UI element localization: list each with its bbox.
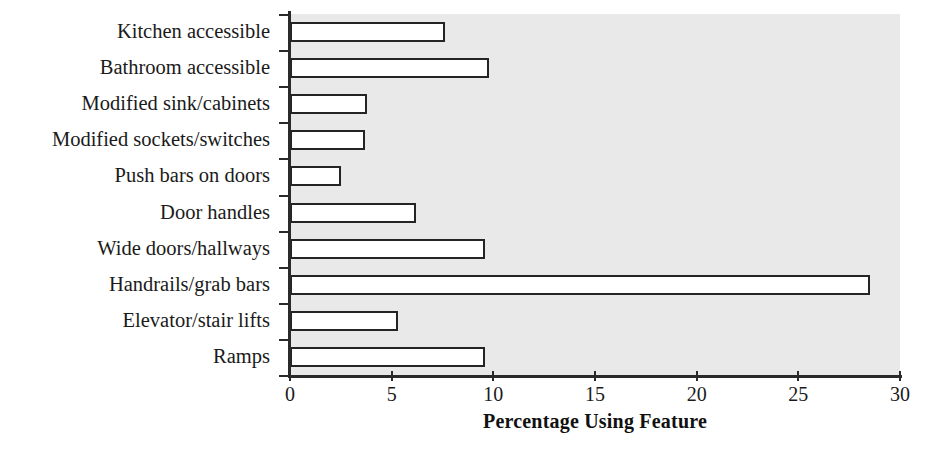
x-axis-tick	[391, 371, 393, 381]
bar	[290, 203, 416, 223]
y-axis-tick	[279, 86, 290, 88]
category-label: Kitchen accessible	[0, 20, 270, 42]
x-axis-tick-label: 30	[870, 382, 930, 406]
bar	[290, 239, 485, 259]
x-axis-tick-label: 10	[463, 382, 523, 406]
x-axis-tick	[492, 371, 494, 381]
bar	[290, 166, 341, 186]
y-axis-tick	[279, 231, 290, 233]
bar	[290, 347, 485, 367]
y-axis-tick	[279, 267, 290, 269]
category-label: Elevator/stair lifts	[0, 309, 270, 331]
y-axis-tick	[279, 122, 290, 124]
bar	[290, 22, 445, 42]
x-axis-tick	[594, 371, 596, 381]
x-axis-tick-label: 25	[768, 382, 828, 406]
plot-area	[290, 14, 900, 375]
x-axis-tick	[899, 371, 901, 381]
bar	[290, 130, 365, 150]
bar	[290, 94, 367, 114]
y-axis-tick	[279, 14, 290, 16]
bar	[290, 58, 489, 78]
bar	[290, 275, 870, 295]
category-label: Door handles	[0, 201, 270, 223]
x-axis-tick-label: 20	[667, 382, 727, 406]
bar-chart-figure: 051015202530 Kitchen accessibleBathroom …	[0, 0, 944, 461]
x-axis-tick	[797, 371, 799, 381]
y-axis-tick	[279, 158, 290, 160]
x-axis-title: Percentage Using Feature	[290, 410, 900, 433]
y-axis-tick	[279, 339, 290, 341]
x-axis-tick-label: 5	[362, 382, 422, 406]
y-axis-tick	[279, 50, 290, 52]
x-axis-tick	[289, 371, 291, 381]
category-labels: Kitchen accessibleBathroom accessibleMod…	[0, 0, 278, 461]
category-label: Push bars on doors	[0, 164, 270, 186]
category-label: Wide doors/hallways	[0, 237, 270, 259]
bar	[290, 311, 398, 331]
y-axis-tick	[279, 303, 290, 305]
category-label: Modified sockets/switches	[0, 128, 270, 150]
category-label: Handrails/grab bars	[0, 273, 270, 295]
y-axis-tick	[279, 195, 290, 197]
category-label: Modified sink/cabinets	[0, 92, 270, 114]
category-label: Ramps	[0, 345, 270, 367]
category-label: Bathroom accessible	[0, 56, 270, 78]
x-axis-tick-label: 15	[565, 382, 625, 406]
x-axis-tick	[696, 371, 698, 381]
